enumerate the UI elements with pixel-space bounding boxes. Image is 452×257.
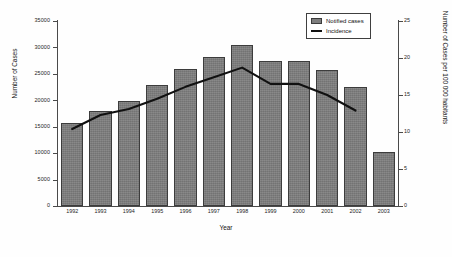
plot-area <box>58 21 398 206</box>
y-axis-right-tick-label: 0 <box>404 203 407 208</box>
y-axis-left-tick-label: 20000 <box>16 98 50 103</box>
x-axis-tick-label: 1994 <box>115 209 143 214</box>
x-axis-tick-label: 2000 <box>285 209 313 214</box>
y-axis-left-tick-label: 35000 <box>16 18 50 23</box>
y-axis-right-tick-label: 25 <box>404 18 410 23</box>
x-axis-title: Year <box>0 224 452 231</box>
line-series-incidence <box>58 21 398 206</box>
y-axis-right-tick <box>399 132 403 133</box>
y-axis-right-tick-label: 5 <box>404 166 407 171</box>
y-axis-left-tick <box>53 153 57 154</box>
x-axis-tick-label: 1995 <box>143 209 171 214</box>
x-axis-tick-label: 1998 <box>228 209 256 214</box>
y-axis-left-tick-label: 0 <box>16 203 50 208</box>
chart-figure: 05000100001500020000250003000035000 0510… <box>0 0 452 257</box>
y-axis-right-tick <box>399 206 403 207</box>
y-axis-right-tick <box>399 58 403 59</box>
chart-legend: Notified cases Incidence <box>306 13 371 39</box>
legend-item-incidence: Incidence <box>311 27 364 35</box>
y-axis-right-tick <box>399 169 403 170</box>
legend-item-notified-cases: Notified cases <box>311 17 364 25</box>
y-axis-right-tick-label: 20 <box>404 55 410 60</box>
y-axis-left-tick <box>53 100 57 101</box>
x-axis-tick-label: 1992 <box>58 209 86 214</box>
legend-label-incidence: Incidence <box>326 28 352 34</box>
y-axis-left-tick-label: 15000 <box>16 124 50 129</box>
x-axis-tick-label: 2001 <box>313 209 341 214</box>
legend-swatch-bar-icon <box>311 18 322 24</box>
x-axis-tick-label: 1997 <box>200 209 228 214</box>
x-axis-tick-label: 2003 <box>370 209 398 214</box>
y-axis-left-tick-label: 5000 <box>16 177 50 182</box>
y-axis-left-tick-label: 25000 <box>16 71 50 76</box>
x-axis-tick-label: 1993 <box>86 209 114 214</box>
y-axis-left-tick-label: 10000 <box>16 150 50 155</box>
y-axis-right-line <box>398 20 399 207</box>
legend-swatch-line-icon <box>311 30 322 32</box>
y-axis-right-tick-label: 10 <box>404 129 410 134</box>
y-axis-left-tick <box>53 21 57 22</box>
x-axis-tick-label: 2002 <box>341 209 369 214</box>
x-axis-tick-label: 1996 <box>171 209 199 214</box>
y-axis-right-tick <box>399 95 403 96</box>
y-axis-left-tick <box>53 47 57 48</box>
x-axis-line <box>57 206 399 207</box>
x-axis-tick-label: 1999 <box>256 209 284 214</box>
y-axis-left-title: Number of Cases <box>11 14 18 134</box>
y-axis-right-tick-label: 15 <box>404 92 410 97</box>
legend-label-notified-cases: Notified cases <box>326 18 364 24</box>
y-axis-left-tick <box>53 180 57 181</box>
y-axis-left-tick <box>53 206 57 207</box>
y-axis-right-tick <box>399 21 403 22</box>
y-axis-right-title: Number of Cases per 100 000 habitants <box>442 0 449 143</box>
y-axis-left-tick <box>53 127 57 128</box>
y-axis-left-tick <box>53 74 57 75</box>
y-axis-left-tick-label: 30000 <box>16 45 50 50</box>
